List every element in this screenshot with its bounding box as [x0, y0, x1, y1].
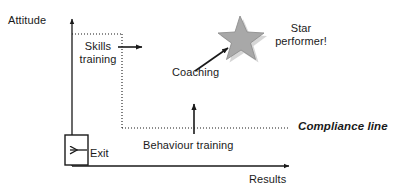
diagram-graphics	[0, 0, 395, 196]
behaviour-training-label: Behaviour training	[143, 139, 233, 152]
skills-training-label: Skills training	[75, 40, 121, 66]
star-icon	[218, 16, 267, 63]
x-axis-label: Results	[249, 173, 286, 186]
compliance-line-label: Compliance line	[298, 120, 388, 133]
y-axis-label: Attitude	[8, 14, 46, 27]
diagram-canvas: Attitude Results Skills training Coachin…	[0, 0, 395, 196]
exit-box[interactable]	[65, 135, 88, 165]
star-performer-label: Star performer!	[268, 22, 334, 48]
exit-label: Exit	[90, 147, 109, 160]
coaching-label: Coaching	[172, 66, 219, 79]
